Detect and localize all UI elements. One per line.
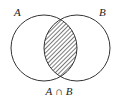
intersection-symbol: ∩ <box>55 85 63 97</box>
caption-set-a: A <box>46 85 53 97</box>
set-a-label: A <box>14 7 21 18</box>
intersection-caption: A ∩ B <box>0 86 116 97</box>
caption-set-b: B <box>66 85 73 97</box>
set-b-label: B <box>99 7 106 18</box>
